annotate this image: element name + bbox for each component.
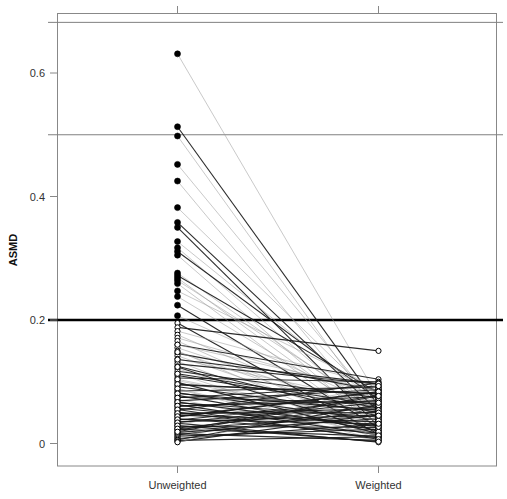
- data-point-filled: [175, 313, 181, 319]
- data-point-open: [376, 393, 381, 398]
- data-point-open: [175, 357, 180, 362]
- parallel-coordinates-chart: 00.20.40.6 ASMD UnweightedWeighted: [0, 0, 507, 499]
- data-point-open: [376, 383, 381, 388]
- data-point-filled: [175, 124, 181, 130]
- data-point-filled: [175, 288, 181, 294]
- data-point-filled: [175, 51, 181, 57]
- data-point-open: [175, 350, 180, 355]
- data-point-open: [175, 440, 180, 445]
- data-point-open: [175, 377, 180, 382]
- data-point-open: [376, 439, 381, 444]
- data-point-open: [175, 342, 180, 347]
- data-point-filled: [175, 239, 181, 245]
- data-point-open: [376, 421, 381, 426]
- data-point-filled: [175, 252, 181, 258]
- data-point-open: [175, 386, 180, 391]
- data-point-open: [376, 348, 381, 353]
- y-tick-label: 0.4: [30, 191, 45, 203]
- data-point-open: [175, 371, 180, 376]
- data-point-filled: [175, 133, 181, 139]
- x-tick-label: Unweighted: [148, 479, 206, 491]
- x-tick-label: Weighted: [355, 479, 401, 491]
- y-tick-label: 0.6: [30, 67, 45, 79]
- data-point-filled: [175, 178, 181, 184]
- y-axis-label: ASMD: [7, 234, 19, 266]
- data-point-filled: [175, 281, 181, 287]
- data-point-filled: [175, 302, 181, 308]
- data-point-filled: [175, 294, 181, 300]
- chart-root: 00.20.40.6 ASMD UnweightedWeighted: [0, 0, 507, 499]
- data-point-filled: [175, 224, 181, 230]
- data-point-filled: [175, 205, 181, 211]
- data-point-open: [175, 429, 180, 434]
- data-point-open: [376, 413, 381, 418]
- y-tick-label: 0: [39, 438, 45, 450]
- data-point-filled: [175, 161, 181, 167]
- data-point-open: [175, 364, 180, 369]
- data-point-open: [376, 400, 381, 405]
- y-tick-label: 0.2: [30, 314, 45, 326]
